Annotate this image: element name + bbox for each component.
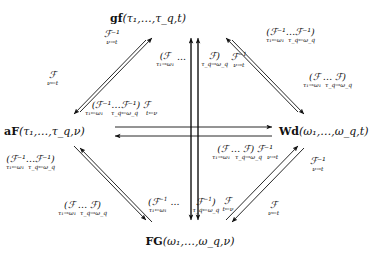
label-center-upper: (ℱ τ₁→ω₁ ... ℱ) τ_q→ω_q ℱ−1 ν→t: [156, 51, 247, 68]
node-wd[interactable]: Wd(ω₁,…,ω_q,t): [279, 126, 368, 137]
node-gf-name: gf: [110, 12, 122, 25]
label-horizontal-upper-sub1: τ₁←ω₁: [85, 110, 103, 116]
label-horizontal-lower-sub1: τ₁→ω₁: [212, 154, 230, 160]
label-center-lower-ellipsis: ...: [170, 197, 179, 207]
label-top-right-outer-sub2: τ_q→ω_q: [325, 82, 352, 88]
node-af-args: (τ₁,…,τ_q,ν): [19, 125, 85, 138]
label-bottom-left-outer-sub2: τ_q→ω_q: [80, 210, 107, 216]
label-center-lower-sub1: τ₁←ω₁: [149, 207, 167, 213]
label-top-right-inner: (ℱ⁻¹…ℱ⁻¹) τ₁←ω₁ τ_q←ω_q: [266, 27, 315, 43]
label-top-right-outer-sub1: τ₁→ω₁: [303, 82, 321, 88]
node-fg[interactable]: FG(ω₁,…,ω_q,ν): [146, 236, 235, 247]
arrow-wd-to-gf: [226, 38, 298, 112]
node-gf[interactable]: gf(τ₁,…,τ_q,t): [110, 13, 186, 24]
node-wd-args: (ω₁,…,ω_q,t): [299, 125, 368, 138]
label-center-upper-sub2: τ_q→ω_q: [201, 61, 228, 67]
label-center-upper-ellipsis: ...: [177, 52, 186, 62]
label-center-lower: (ℱ−1 τ₁←ω₁ ... ℱ−1) τ_q←ω_q ℱ t←ν: [148, 196, 233, 213]
label-bottom-left-outer-sub1: τ₁→ω₁: [58, 210, 76, 216]
label-horizontal-lower-sub2: τ_q→ω_q: [235, 154, 262, 160]
label-top-right-inner-sub1: τ₁←ω₁: [266, 37, 284, 43]
label-bottom-right-inner: ℱ⁻¹ ν→t: [310, 156, 326, 172]
commutative-diagram: gf(τ₁,…,τ_q,t) aF(τ₁,…,τ_q,ν) Wd(ω₁,…,ω_…: [0, 0, 381, 258]
node-gf-args: (τ₁,…,τ_q,t): [122, 12, 186, 25]
label-bottom-right-outer-sub: ν←t: [268, 210, 279, 216]
label-bottom-right-inner-sub: ν→t: [312, 166, 323, 172]
label-center-upper-sub1: τ₁→ω₁: [156, 61, 174, 67]
label-top-left-inner: ℱ⁻¹ ν→t: [104, 29, 120, 45]
label-top-right-outer: (ℱ … ℱ) τ₁→ω₁ τ_q→ω_q: [303, 72, 352, 88]
node-af[interactable]: aF(τ₁,…,τ_q,ν): [4, 126, 85, 137]
label-center-lower-sub2: τ_q←ω_q: [192, 207, 219, 213]
label-horizontal-lower-sub3: ν→t: [267, 154, 278, 160]
node-wd-name: Wd: [279, 125, 299, 138]
label-bottom-left-inner-sub1: τ₁←ω₁: [6, 164, 24, 170]
label-bottom-left-inner-sub2: τ_q←ω_q: [28, 164, 55, 170]
label-horizontal-upper-sub2: τ_q←ω_q: [111, 110, 138, 116]
label-bottom-left-outer: (ℱ … ℱ) τ₁→ω₁ τ_q→ω_q: [58, 200, 107, 216]
label-top-left-outer: ℱ ν←t: [47, 70, 58, 86]
label-bottom-left-inner: (ℱ⁻¹…ℱ⁻¹) τ₁←ω₁ τ_q←ω_q: [6, 154, 55, 170]
node-af-name: aF: [4, 125, 19, 138]
node-fg-name: FG: [146, 235, 163, 248]
label-bottom-right-outer: ℱ ν←t: [268, 200, 279, 216]
label-horizontal-lower: (ℱ … ℱ) ℱ⁻¹ τ₁→ω₁ τ_q→ω_q ν→t: [212, 144, 278, 160]
label-center-lower-sub3: t←ν: [222, 206, 233, 212]
label-horizontal-upper-sub3: t←ν: [146, 110, 157, 116]
label-center-upper-sub3: ν→t: [233, 62, 244, 68]
node-fg-args: (ω₁,…,ω_q,ν): [163, 235, 235, 248]
label-horizontal-upper: (ℱ⁻¹…ℱ⁻¹) ℱ τ₁←ω₁ τ_q←ω_q t←ν: [85, 100, 157, 116]
label-top-left-outer-sub: ν←t: [47, 80, 58, 86]
label-top-left-inner-sub: ν→t: [106, 39, 117, 45]
label-top-right-inner-sub2: τ_q←ω_q: [288, 37, 315, 43]
